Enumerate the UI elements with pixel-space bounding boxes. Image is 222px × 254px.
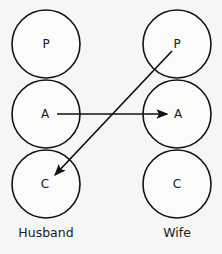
column-label-wife: Wife — [163, 225, 191, 240]
diagram-canvas: P A C P A C Husband Wife — [0, 0, 222, 254]
label-wife-adult: A — [174, 107, 183, 121]
label-wife-child: C — [173, 177, 181, 191]
label-wife-parent: P — [173, 37, 180, 51]
label-husband-child: C — [41, 177, 49, 191]
column-label-husband: Husband — [18, 225, 73, 240]
transactional-analysis-diagram: P A C P A C Husband Wife — [0, 0, 222, 254]
label-husband-parent: P — [42, 37, 49, 51]
label-husband-adult: A — [41, 107, 50, 121]
